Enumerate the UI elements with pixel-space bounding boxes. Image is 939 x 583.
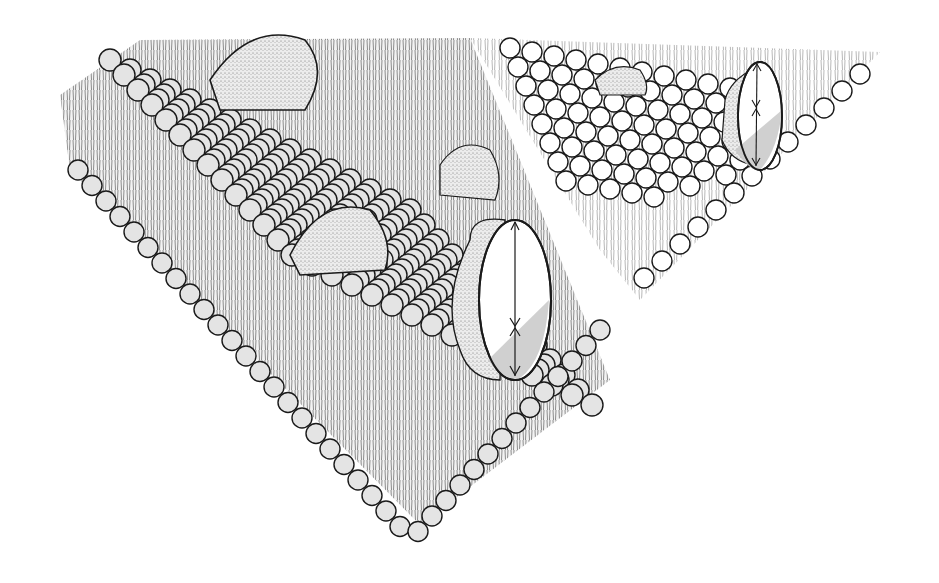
lipid-head [390,517,410,537]
lipid-head [492,429,512,449]
lipid-head [832,81,852,101]
lipid-head [814,98,834,118]
lipid-head [422,506,442,526]
lipid-head [408,522,428,542]
lipid-head [561,384,583,406]
lipid-head [520,398,540,418]
lipid-head [688,217,708,237]
lipid-head [562,351,582,371]
lipid-head [540,133,560,153]
lipid-head [634,268,654,288]
lipid-head [436,491,456,511]
lipid-head [421,314,443,336]
membrane-diagram [0,0,939,583]
lipid-head [590,320,610,340]
lipid-head [362,486,382,506]
lipid-head [341,274,363,296]
lipid-head [334,455,354,475]
lipid-head [320,439,340,459]
lipid-head [534,382,554,402]
lipid-head [264,377,284,397]
membrane-illustration [0,0,939,583]
lipid-head [576,336,596,356]
lipid-head [500,38,520,58]
lipid-head [82,176,102,196]
lipid-head [348,470,368,490]
lipid-head [652,251,672,271]
lipid-head [361,284,383,306]
lipid-head [292,408,312,428]
lipid-head [278,393,298,413]
lipid-head [152,253,172,273]
lipid-head [194,300,214,320]
lipid-head [581,394,603,416]
lipid-head [401,304,423,326]
lipid-head [450,475,470,495]
lipid-head [208,315,228,335]
lipid-head [680,176,700,196]
lipid-head [506,413,526,433]
lipid-head [622,183,642,203]
lipid-head [96,191,116,211]
lipid-head [376,501,396,521]
lipid-head [381,294,403,316]
lipid-head [578,175,598,195]
lipid-head [236,346,256,366]
lipid-head [670,234,690,254]
lipid-head [600,179,620,199]
lipid-head [68,160,88,180]
lipid-head [716,165,736,185]
lipid-head [548,367,568,387]
lipid-head [796,115,816,135]
lipid-head [478,444,498,464]
lipid-head [724,183,744,203]
lipid-head [250,362,270,382]
lipid-head [124,222,144,242]
lipid-head [508,57,528,77]
lipid-head [222,331,242,351]
lipid-head [850,64,870,84]
lipid-head [532,114,552,134]
lipid-head [138,238,158,258]
lipid-head [644,187,664,207]
lipid-head [180,284,200,304]
lipid-head [306,424,326,444]
lipid-head [524,95,544,115]
lipid-head [706,200,726,220]
lipid-head [464,460,484,480]
lipid-head [548,152,568,172]
lipid-head [516,76,536,96]
lipid-head [110,207,130,227]
lipid-head [556,171,576,191]
lipid-head [166,269,186,289]
